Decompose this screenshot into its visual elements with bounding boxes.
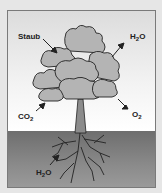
diagram-frame: Staub H2O CO2 O2 H2O bbox=[7, 10, 156, 188]
label-water-out: H2O bbox=[130, 33, 145, 42]
tree-trunk bbox=[75, 99, 86, 133]
label-o2: O2 bbox=[132, 111, 142, 120]
tree-canopy bbox=[33, 25, 119, 101]
tree-roots bbox=[52, 133, 110, 183]
label-dust: Staub bbox=[18, 33, 40, 41]
label-co2: CO2 bbox=[18, 113, 33, 122]
label-water-in: H2O bbox=[36, 169, 51, 178]
